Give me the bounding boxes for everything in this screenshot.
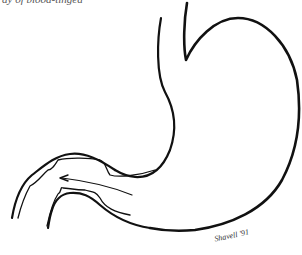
duodenum-lower-outer <box>48 193 150 228</box>
mucosa-lower <box>47 188 130 226</box>
duodenum-upper-outer <box>12 154 115 218</box>
lesser-curvature-line <box>115 18 174 177</box>
stomach-illustration <box>0 0 302 255</box>
mucosa-upper <box>18 158 155 218</box>
greater-curvature-line <box>150 3 299 231</box>
